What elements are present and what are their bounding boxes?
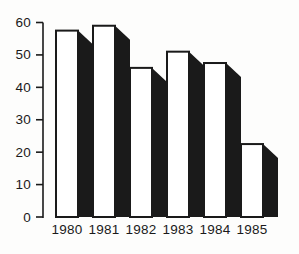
x-axis-label-1984: 1984 <box>200 222 231 237</box>
bar-shadow-1980 <box>78 31 93 217</box>
y-axis-tick-label: 20 <box>16 145 31 160</box>
x-axis-label-1981: 1981 <box>89 222 120 237</box>
bar-1985 <box>241 144 263 217</box>
bar-1980 <box>56 31 78 217</box>
x-axis-label-1985: 1985 <box>237 222 268 237</box>
y-axis-tick-label: 50 <box>16 47 31 62</box>
bar-1982 <box>130 68 152 217</box>
bar-1984 <box>204 63 226 217</box>
bar-chart: 0102030405060198019811982198319841985 <box>0 0 299 254</box>
bar-shadow-1981 <box>115 26 130 217</box>
y-axis-tick-label: 10 <box>16 177 31 192</box>
bar-shadow-1985 <box>263 144 278 217</box>
y-axis-tick-label: 40 <box>16 80 31 95</box>
bar-shadow-1982 <box>152 68 167 217</box>
y-axis-tick-label: 30 <box>16 112 31 127</box>
y-axis-tick-label: 0 <box>23 210 31 225</box>
figure-page: 0102030405060198019811982198319841985 <box>0 0 299 254</box>
bar-1983 <box>167 52 189 217</box>
x-axis-label-1983: 1983 <box>163 222 194 237</box>
y-axis-tick-label: 60 <box>16 15 31 30</box>
x-axis-label-1982: 1982 <box>126 222 157 237</box>
bar-shadow-1984 <box>226 63 241 217</box>
bar-1981 <box>93 26 115 217</box>
bar-shadow-1983 <box>189 52 204 217</box>
x-axis-label-1980: 1980 <box>52 222 83 237</box>
